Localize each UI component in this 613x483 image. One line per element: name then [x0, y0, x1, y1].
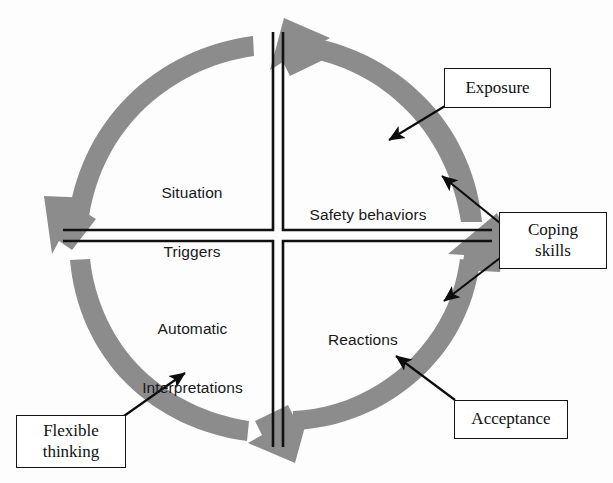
callout-text-acceptance: Acceptance — [471, 409, 550, 429]
diagram-canvas: Situation Triggers Safety behaviors Auto… — [0, 0, 613, 483]
callout-text-coping-line2: skills — [535, 241, 571, 261]
callout-text-exposure: Exposure — [465, 78, 529, 98]
quadrant-label-line2: Interpretations — [110, 378, 275, 398]
callout-text-flexible-line2: thinking — [43, 442, 100, 462]
quadrant-label-automatic-interpretations: Automatic Interpretations — [110, 279, 275, 438]
quadrant-label-line1: Situation — [132, 183, 252, 203]
quadrant-label-reactions: Reactions — [311, 290, 415, 389]
quadrant-label-line2: Triggers — [132, 242, 252, 262]
quadrant-label-line1: Reactions — [311, 330, 415, 350]
callout-box-exposure[interactable]: Exposure — [444, 68, 551, 108]
callout-text-flexible-line1: Flexible — [43, 421, 99, 441]
quadrant-label-situation-triggers: Situation Triggers — [132, 143, 252, 302]
callout-box-flexible-thinking[interactable]: Flexible thinking — [16, 415, 126, 468]
quadrant-label-line1: Automatic — [110, 319, 275, 339]
callout-box-acceptance[interactable]: Acceptance — [454, 400, 568, 439]
callout-text-coping-line1: Coping — [528, 220, 578, 240]
quadrant-label-line1: Safety behaviors — [297, 205, 439, 225]
callout-box-coping-skills[interactable]: Coping skills — [499, 212, 607, 269]
quadrant-label-safety-behaviors: Safety behaviors — [297, 165, 439, 264]
